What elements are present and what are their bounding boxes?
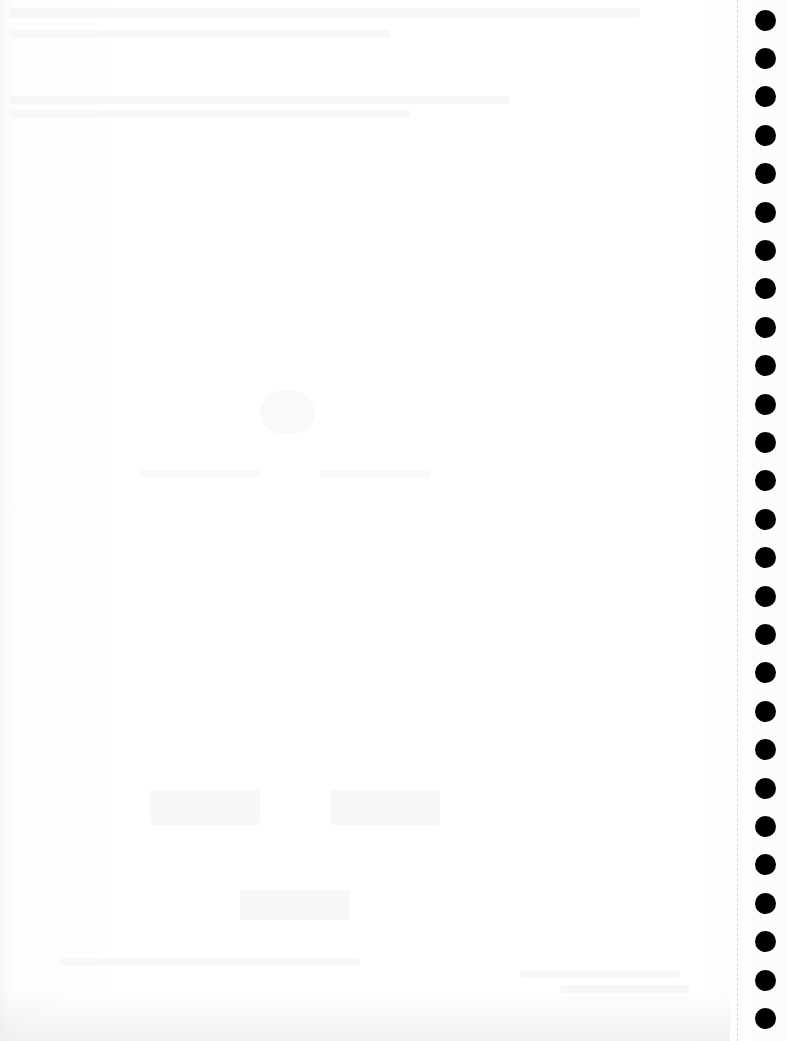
binding-holes: [755, 0, 777, 1041]
punch-hole: [755, 586, 776, 607]
punch-hole: [755, 240, 776, 261]
show-through-line: [10, 110, 410, 118]
punch-hole: [755, 778, 776, 799]
show-through-block: [150, 790, 260, 825]
punch-hole: [755, 509, 776, 530]
punch-hole: [755, 125, 776, 146]
punch-hole: [755, 163, 776, 184]
punch-hole: [755, 355, 776, 376]
show-through-line: [140, 470, 260, 478]
punch-hole: [755, 931, 776, 952]
show-through-line: [60, 958, 360, 966]
punch-hole: [755, 432, 776, 453]
show-through-mark: [260, 390, 315, 435]
punch-hole: [755, 739, 776, 760]
punch-hole: [755, 10, 776, 31]
show-through-line: [10, 96, 510, 104]
show-through-line: [10, 8, 640, 18]
punch-hole: [755, 394, 776, 415]
punch-hole: [755, 701, 776, 722]
page-bottom-shadow: [0, 991, 730, 1041]
show-through-block: [240, 890, 350, 920]
punch-hole: [755, 86, 776, 107]
punch-hole: [755, 470, 776, 491]
show-through-line: [320, 470, 430, 478]
punch-hole: [755, 816, 776, 837]
perforation-line: [737, 0, 738, 1041]
punch-hole: [755, 893, 776, 914]
punch-hole: [755, 48, 776, 69]
punch-hole: [755, 624, 776, 645]
punch-hole: [755, 970, 776, 991]
punch-hole: [755, 317, 776, 338]
punch-hole: [755, 547, 776, 568]
show-through-line: [520, 970, 680, 978]
punch-hole: [755, 854, 776, 875]
punch-hole: [755, 278, 776, 299]
show-through-block: [330, 790, 440, 825]
show-through-line: [10, 30, 390, 38]
punch-hole: [755, 1008, 776, 1029]
punch-hole: [755, 202, 776, 223]
paper-sheet: [0, 0, 787, 1041]
punch-hole: [755, 662, 776, 683]
